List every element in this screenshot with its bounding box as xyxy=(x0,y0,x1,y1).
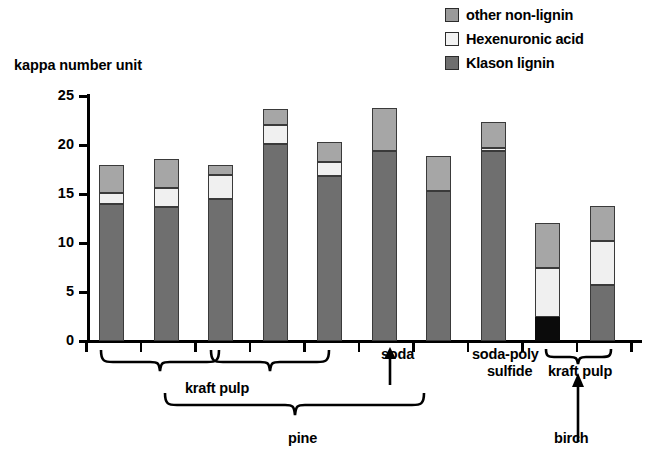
other-non-lignin-segment xyxy=(426,156,451,191)
bar-3 xyxy=(208,165,233,341)
klason-lignin-segment xyxy=(317,176,342,341)
bar-7 xyxy=(426,156,451,341)
klason-lignin-segment xyxy=(154,207,179,341)
other-non-lignin-segment xyxy=(208,165,233,176)
annotation-pine: pine xyxy=(288,430,317,447)
klason-lignin-segment xyxy=(372,151,397,341)
bars-container xyxy=(0,0,664,341)
bar-9 xyxy=(535,223,560,341)
other-non-lignin-segment xyxy=(590,206,615,241)
klason-lignin-segment xyxy=(426,191,451,341)
bar-2 xyxy=(154,159,179,341)
annotation-kraft-pulp-pine: kraft pulp xyxy=(185,380,249,397)
black-segment xyxy=(535,317,560,342)
annotation-braces xyxy=(0,341,664,468)
bar-4 xyxy=(263,109,288,341)
bar-8 xyxy=(481,121,506,341)
hexenuronic-acid-segment xyxy=(317,162,342,177)
annotation-birch: birch xyxy=(554,430,588,447)
annotation-soda-poly-sulfide-line2: sulfide xyxy=(487,363,532,380)
klason-lignin-segment xyxy=(208,199,233,341)
annotation-soda: soda xyxy=(381,346,414,363)
klason-lignin-segment xyxy=(481,151,506,341)
annotation-kraft-pulp-birch: kraft pulp xyxy=(548,363,612,380)
hexenuronic-acid-segment xyxy=(535,268,560,317)
hexenuronic-acid-segment xyxy=(263,125,288,144)
hexenuronic-acid-segment xyxy=(99,193,124,204)
hexenuronic-acid-segment xyxy=(208,175,233,199)
bar-6 xyxy=(372,108,397,341)
other-non-lignin-segment xyxy=(263,109,288,126)
klason-lignin-segment xyxy=(263,144,288,341)
hexenuronic-acid-segment xyxy=(154,188,179,207)
other-non-lignin-segment xyxy=(99,165,124,193)
other-non-lignin-segment xyxy=(317,142,342,162)
other-non-lignin-segment xyxy=(535,223,560,267)
annotation-soda-poly-sulfide-line1: soda-poly xyxy=(472,346,539,363)
other-non-lignin-segment xyxy=(154,159,179,188)
other-non-lignin-segment xyxy=(481,122,506,148)
bar-5 xyxy=(317,142,342,341)
klason-lignin-segment xyxy=(590,285,615,341)
stacked-bar-chart-figure: other non-lignin Hexenuronic acid Klason… xyxy=(0,0,664,468)
hexenuronic-acid-segment xyxy=(590,241,615,285)
klason-lignin-segment xyxy=(99,204,124,341)
bar-10 xyxy=(590,206,615,341)
bar-1 xyxy=(99,165,124,341)
other-non-lignin-segment xyxy=(372,108,397,151)
